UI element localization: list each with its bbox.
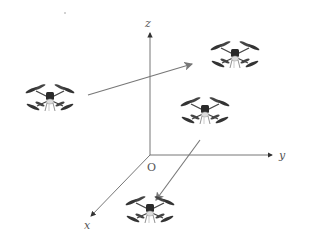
y-axis-label: y (279, 150, 285, 161)
drone-middle-right-icon (180, 96, 230, 124)
diagram-svg (0, 0, 309, 242)
motion-arrow-left-to-top-right (88, 64, 192, 95)
x-axis (91, 155, 150, 216)
drone-top-right-icon (210, 40, 260, 68)
z-axis-label: z (145, 18, 151, 29)
origin-label: O (147, 162, 156, 173)
stray-dot (64, 12, 66, 14)
drone-left-icon (25, 83, 75, 111)
diagram-canvas: z y x O (0, 0, 309, 242)
motion-arrow-middle-to-bottom (156, 140, 200, 200)
x-axis-label: x (84, 220, 90, 231)
drone-bottom-icon (125, 195, 175, 223)
